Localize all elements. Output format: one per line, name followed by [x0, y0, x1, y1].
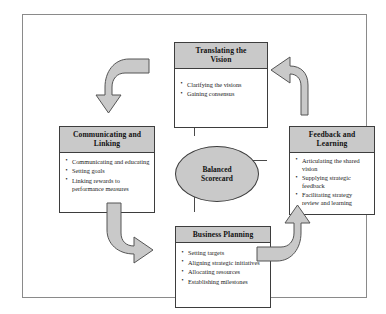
list-item: Establishing milestones — [181, 278, 266, 286]
box-body-communicating-and-linking: Communicating and educating Setting goal… — [60, 153, 154, 197]
box-header-communicating-and-linking: Communicating and Linking — [60, 127, 154, 153]
bullet-list-business-planning: Setting targets Aligning strategic initi… — [181, 249, 266, 285]
box-header-line1: Communicating and — [73, 130, 141, 139]
box-header-feedback-and-learning: Feedback and Learning — [290, 127, 374, 153]
list-item: Communicating and educating — [65, 158, 150, 166]
quadrant-box-communicating-and-linking[interactable]: Communicating and Linking Communicating … — [59, 126, 155, 213]
center-node-balanced-scorecard[interactable]: Balanced Scorecard — [175, 146, 259, 202]
bullet-list-communicating-and-linking: Communicating and educating Setting goal… — [65, 158, 150, 193]
list-item: Gaining consensus — [180, 90, 263, 98]
diagram-canvas: Translating the Vision Clarifying the vi… — [0, 0, 386, 314]
box-header-line1: Feedback and — [309, 130, 356, 139]
arrow-top-right-up-icon — [261, 55, 317, 117]
box-header-line2: Learning — [317, 139, 348, 148]
box-header-translating-the-vision: Translating the Vision — [175, 43, 267, 69]
bullet-list-translating-the-vision: Clarifying the visions Gaining consensus — [180, 81, 263, 98]
list-item: Setting targets — [181, 249, 266, 257]
list-item: Setting goals — [65, 167, 150, 175]
list-item: Clarifying the visions — [180, 81, 263, 89]
box-body-translating-the-vision: Clarifying the visions Gaining consensus — [175, 69, 267, 103]
arrow-bottom-right-up-icon — [255, 201, 313, 265]
box-header-line2: Vision — [211, 55, 232, 64]
list-item: Linking rewards to performance measures — [65, 177, 150, 193]
list-item: Allocating resources — [181, 268, 266, 276]
arrow-bottom-left-right-icon — [99, 201, 157, 265]
box-header-line2: Linking — [94, 139, 120, 148]
box-header-line1: Translating the — [196, 46, 247, 55]
list-item: Supplying strategic feedback — [295, 174, 370, 190]
list-item: Aligning strategic initiatives — [181, 259, 266, 267]
box-header-line1: Business Planning — [193, 230, 254, 239]
bullet-list-feedback-and-learning: Articulating the shared vision Supplying… — [295, 157, 370, 207]
center-label-line1: Balanced — [202, 165, 231, 174]
list-item: Articulating the shared vision — [295, 157, 370, 173]
diagram-frame: Translating the Vision Clarifying the vi… — [22, 14, 367, 298]
quadrant-box-translating-the-vision[interactable]: Translating the Vision Clarifying the vi… — [174, 42, 268, 128]
center-label-line2: Scorecard — [201, 174, 233, 183]
arrow-top-left-down-icon — [95, 55, 151, 117]
